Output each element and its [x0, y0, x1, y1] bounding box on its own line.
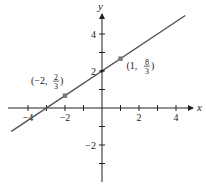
svg-text:): ) — [60, 75, 63, 87]
y-tick-label: 4 — [91, 29, 96, 40]
graph-canvas: x y −4−224 42−2 (−2, 23)(1, 83) — [0, 0, 206, 188]
fraction-numerator: 2 — [54, 73, 58, 82]
svg-text:(1,: (1, — [127, 60, 138, 72]
x-axis-label: x — [196, 101, 202, 113]
fraction-numerator: 8 — [145, 58, 149, 67]
line-plot — [11, 16, 185, 132]
x-tick-labels: −4−224 — [23, 112, 179, 123]
x-tick-label: −2 — [60, 112, 71, 123]
y-intercept-point — [100, 69, 103, 72]
x-tick-label: 2 — [137, 112, 142, 123]
svg-text:): ) — [151, 60, 154, 72]
data-point — [63, 93, 67, 97]
fraction-denominator: 3 — [54, 82, 58, 91]
y-axis-label: y — [97, 0, 103, 12]
fraction-denominator: 3 — [145, 67, 149, 76]
x-tick-label: 4 — [174, 112, 179, 123]
point-label: (−2, 23) — [31, 73, 63, 91]
y-tick-label: −2 — [85, 140, 96, 151]
data-point — [118, 56, 122, 60]
point-label: (1, 83) — [127, 58, 155, 76]
y-tick-labels: 42−2 — [85, 29, 96, 151]
svg-text:(−2,: (−2, — [31, 75, 47, 87]
